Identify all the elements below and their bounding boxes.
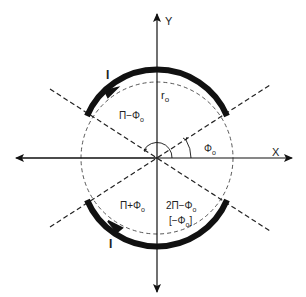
angle-arc-phi — [186, 140, 191, 158]
radius-label: ro — [161, 89, 170, 104]
region-label-minus-phi: [−Φo] — [169, 215, 193, 228]
current-label-top: I — [106, 68, 109, 82]
region-label-2pi-minus-phi: 2Π−Φo — [166, 200, 197, 213]
current-loop-diagram: Y X ro I I Π−Φo Φo Π+Φo 2Π−Φo [−Φo] — [0, 0, 306, 297]
current-label-bottom: I — [109, 237, 112, 251]
region-label-pi-plus-phi: Π+Φo — [120, 200, 145, 213]
angle-arc-pi-minus-phi — [144, 142, 172, 158]
x-axis-label: X — [272, 146, 280, 158]
dashed-line-phi — [50, 89, 270, 231]
region-label-phi: Φo — [204, 143, 216, 156]
dashed-line-minus-phi — [50, 85, 270, 227]
angle-tick-phi — [183, 137, 187, 140]
region-label-pi-minus-phi: Π−Φo — [119, 110, 144, 123]
y-axis-label: Y — [165, 15, 173, 27]
